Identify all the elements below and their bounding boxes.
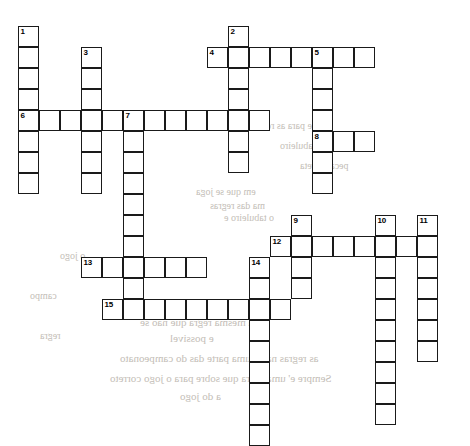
crossword-cell[interactable] <box>354 47 375 68</box>
crossword-cell[interactable] <box>186 257 207 278</box>
crossword-cell[interactable]: 6 <box>18 110 39 131</box>
crossword-cell[interactable] <box>165 257 186 278</box>
crossword-cell[interactable] <box>375 278 396 299</box>
crossword-cell[interactable] <box>123 131 144 152</box>
crossword-cell[interactable] <box>249 47 270 68</box>
crossword-cell[interactable] <box>123 173 144 194</box>
crossword-cell[interactable]: 13 <box>81 257 102 278</box>
crossword-grid[interactable]: 123456789101112131415 <box>0 0 470 446</box>
crossword-cell[interactable] <box>165 110 186 131</box>
crossword-cell[interactable] <box>312 89 333 110</box>
crossword-cell[interactable] <box>312 152 333 173</box>
crossword-cell[interactable] <box>123 236 144 257</box>
crossword-cell[interactable] <box>228 299 249 320</box>
crossword-cell[interactable]: 9 <box>291 215 312 236</box>
crossword-cell[interactable] <box>165 299 186 320</box>
crossword-cell[interactable] <box>291 47 312 68</box>
crossword-cell[interactable] <box>354 236 375 257</box>
crossword-cell[interactable] <box>333 236 354 257</box>
crossword-cell[interactable] <box>81 110 102 131</box>
crossword-cell[interactable] <box>312 110 333 131</box>
crossword-cell[interactable] <box>123 215 144 236</box>
crossword-cell[interactable] <box>249 299 270 320</box>
crossword-cell[interactable] <box>228 68 249 89</box>
crossword-cell[interactable] <box>249 110 270 131</box>
crossword-cell[interactable] <box>270 299 291 320</box>
crossword-cell[interactable] <box>249 278 270 299</box>
crossword-cell[interactable] <box>144 299 165 320</box>
crossword-cell[interactable] <box>417 257 438 278</box>
crossword-cell[interactable] <box>18 47 39 68</box>
crossword-cell[interactable]: 2 <box>228 26 249 47</box>
crossword-cell[interactable] <box>123 299 144 320</box>
crossword-cell[interactable]: 7 <box>123 110 144 131</box>
crossword-cell[interactable] <box>123 152 144 173</box>
crossword-cell[interactable] <box>249 320 270 341</box>
crossword-cell[interactable] <box>81 152 102 173</box>
crossword-cell[interactable] <box>123 194 144 215</box>
crossword-cell[interactable] <box>186 110 207 131</box>
crossword-cell[interactable] <box>207 299 228 320</box>
crossword-cell[interactable] <box>291 236 312 257</box>
crossword-cell[interactable] <box>333 47 354 68</box>
crossword-cell[interactable]: 14 <box>249 257 270 278</box>
crossword-cell[interactable] <box>228 131 249 152</box>
crossword-cell[interactable] <box>18 131 39 152</box>
crossword-cell[interactable] <box>396 236 417 257</box>
crossword-cell[interactable] <box>228 110 249 131</box>
crossword-cell[interactable] <box>228 89 249 110</box>
crossword-cell[interactable]: 8 <box>312 131 333 152</box>
crossword-cell[interactable] <box>375 383 396 404</box>
crossword-cell[interactable] <box>207 110 228 131</box>
crossword-cell[interactable] <box>249 383 270 404</box>
crossword-cell[interactable] <box>81 131 102 152</box>
crossword-cell[interactable] <box>123 278 144 299</box>
crossword-cell[interactable] <box>375 257 396 278</box>
crossword-cell[interactable]: 10 <box>375 215 396 236</box>
crossword-cell[interactable] <box>417 299 438 320</box>
crossword-cell[interactable] <box>249 425 270 446</box>
crossword-cell[interactable]: 3 <box>81 47 102 68</box>
crossword-cell[interactable] <box>39 110 60 131</box>
crossword-cell[interactable] <box>417 236 438 257</box>
crossword-cell[interactable] <box>18 173 39 194</box>
crossword-cell[interactable]: 12 <box>270 236 291 257</box>
crossword-cell[interactable]: 4 <box>207 47 228 68</box>
crossword-cell[interactable] <box>123 257 144 278</box>
crossword-cell[interactable] <box>375 362 396 383</box>
crossword-cell[interactable] <box>18 152 39 173</box>
crossword-cell[interactable] <box>228 152 249 173</box>
crossword-cell[interactable] <box>375 236 396 257</box>
crossword-cell[interactable] <box>81 173 102 194</box>
crossword-cell[interactable] <box>249 341 270 362</box>
crossword-cell[interactable] <box>18 89 39 110</box>
crossword-cell[interactable] <box>228 47 249 68</box>
crossword-cell[interactable] <box>144 110 165 131</box>
crossword-cell[interactable] <box>417 341 438 362</box>
crossword-cell[interactable] <box>102 257 123 278</box>
crossword-cell[interactable] <box>60 110 81 131</box>
crossword-cell[interactable] <box>249 404 270 425</box>
crossword-cell[interactable] <box>417 320 438 341</box>
crossword-cell[interactable]: 11 <box>417 215 438 236</box>
crossword-cell[interactable] <box>249 362 270 383</box>
crossword-cell[interactable] <box>81 89 102 110</box>
crossword-cell[interactable] <box>291 278 312 299</box>
crossword-cell[interactable] <box>18 68 39 89</box>
crossword-cell[interactable] <box>375 404 396 425</box>
crossword-cell[interactable] <box>186 299 207 320</box>
crossword-cell[interactable] <box>291 257 312 278</box>
crossword-cell[interactable] <box>417 278 438 299</box>
crossword-cell[interactable] <box>81 68 102 89</box>
crossword-cell[interactable] <box>312 173 333 194</box>
crossword-cell[interactable] <box>312 236 333 257</box>
crossword-cell[interactable] <box>312 68 333 89</box>
crossword-cell[interactable] <box>333 131 354 152</box>
crossword-cell[interactable] <box>375 341 396 362</box>
crossword-cell[interactable]: 1 <box>18 26 39 47</box>
crossword-cell[interactable]: 5 <box>312 47 333 68</box>
crossword-cell[interactable] <box>354 131 375 152</box>
crossword-cell[interactable]: 15 <box>102 299 123 320</box>
crossword-cell[interactable] <box>102 110 123 131</box>
crossword-cell[interactable] <box>144 257 165 278</box>
